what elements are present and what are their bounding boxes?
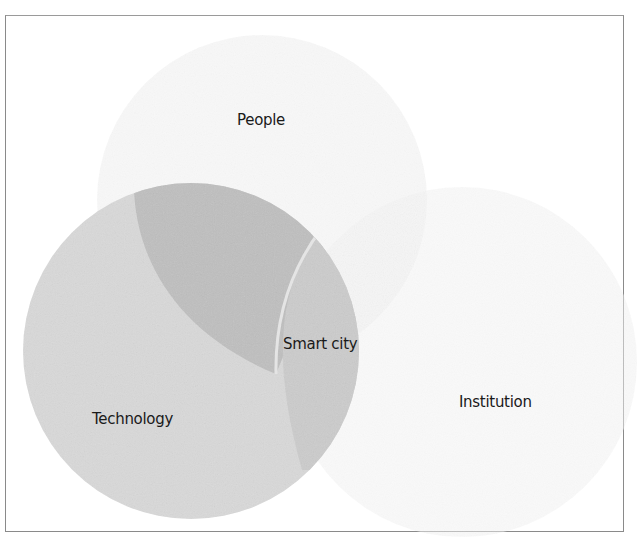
smart-city-label: Smart city <box>283 335 357 353</box>
institution-label: Institution <box>459 393 532 411</box>
venn-diagram <box>0 0 638 549</box>
technology-label: Technology <box>92 410 173 428</box>
people-label: People <box>237 111 285 129</box>
